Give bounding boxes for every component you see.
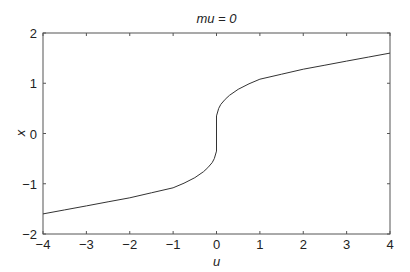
x-tick-label: −4 bbox=[36, 237, 51, 252]
x-tick-label: −2 bbox=[122, 237, 137, 252]
x-tick-label: 0 bbox=[213, 237, 220, 252]
data-line bbox=[43, 53, 390, 214]
y-tick-label: 1 bbox=[30, 76, 37, 91]
y-tick-label: −2 bbox=[22, 227, 37, 242]
x-axis-ticks: −4−3−2−101234 bbox=[36, 33, 394, 252]
x-tick-label: −1 bbox=[166, 237, 181, 252]
x-tick-label: 1 bbox=[256, 237, 263, 252]
x-tick-label: 3 bbox=[343, 237, 350, 252]
x-tick-label: 2 bbox=[300, 237, 307, 252]
y-axis-label: x bbox=[13, 129, 28, 137]
y-axis-ticks: −2−1012 bbox=[22, 26, 390, 242]
plot-area: −4−3−2−101234 −2−1012 bbox=[22, 26, 393, 252]
chart: mu = 0 −4−3−2−101234 −2−1012 u x bbox=[0, 0, 410, 272]
y-tick-label: 2 bbox=[30, 26, 37, 41]
y-tick-label: −1 bbox=[22, 177, 37, 192]
x-axis-label: u bbox=[213, 254, 220, 269]
y-tick-label: 0 bbox=[30, 127, 37, 142]
x-tick-label: −3 bbox=[79, 237, 94, 252]
chart-title: mu = 0 bbox=[196, 11, 237, 26]
x-tick-label: 4 bbox=[386, 237, 393, 252]
